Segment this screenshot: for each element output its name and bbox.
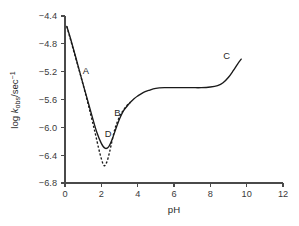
y-axis-title-middle: /sec xyxy=(9,79,20,97)
x-tick-label: 6 xyxy=(171,189,176,199)
y-tick-label: −4.8 xyxy=(39,39,57,49)
x-tick-label: 2 xyxy=(99,189,104,199)
figure-container: −6.8 −6.4 −6.0 −5.6 −5.2 −4.8 −4.4 log k… xyxy=(0,0,299,226)
curve-label-b: B xyxy=(114,107,120,118)
y-axis-title-subscript: obs xyxy=(14,97,22,109)
ph-rate-profile-chart: −6.8 −6.4 −6.0 −5.6 −5.2 −4.8 −4.4 log k… xyxy=(0,0,299,226)
curve-label-a: A xyxy=(83,65,90,76)
x-tick-label: 12 xyxy=(278,189,288,199)
y-tick-label: −6.4 xyxy=(39,151,57,161)
x-axis-title: pH xyxy=(168,204,180,215)
chart-background xyxy=(0,0,299,226)
y-tick-label: −4.4 xyxy=(39,11,57,21)
x-tick-label: 8 xyxy=(208,189,213,199)
x-tick-label: 10 xyxy=(242,189,252,199)
curve-label-d: D xyxy=(105,128,112,139)
curve-label-c: C xyxy=(223,50,230,61)
y-axis-title-superscript: −1 xyxy=(9,71,17,79)
y-tick-label: −6.0 xyxy=(39,123,57,133)
y-tick-label: −6.8 xyxy=(39,178,57,188)
y-tick-label: −5.2 xyxy=(39,67,57,77)
x-tick-label: 4 xyxy=(135,189,140,199)
y-axis-title-prefix: log xyxy=(9,113,20,128)
x-tick-label: 0 xyxy=(62,189,67,199)
y-tick-label: −5.6 xyxy=(39,95,57,105)
